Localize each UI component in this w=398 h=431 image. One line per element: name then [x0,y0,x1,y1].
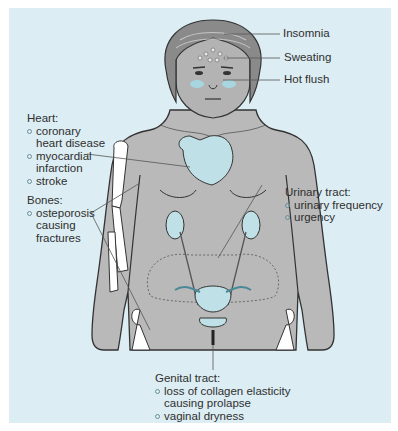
heart-item: myocardial infarction [27,150,107,175]
bones-callout: Bones: osteporosis causing fractures [27,194,91,244]
bones-item: osteporosis causing fractures [27,207,91,245]
genital-item: loss of collagen elasticity causing prol… [155,385,315,410]
genital-item: vaginal dryness [155,410,315,423]
genital-callout: Genital tract: loss of collagen elastici… [155,372,315,422]
label-insomnia: Insomnia [283,27,330,39]
label-hot-flush: Hot flush [284,73,329,85]
label-sweating: Sweating [284,51,331,63]
heart-item: coronary heart disease [27,125,107,150]
urinary-title: Urinary tract: [285,186,385,199]
urinary-callout: Urinary tract: urinary frequency urgency [285,186,385,224]
genital-title: Genital tract: [155,372,315,385]
heart-callout: Heart: coronary heart disease myocardial… [27,112,107,187]
heart-item: stroke [27,175,107,188]
heart-title: Heart: [27,112,107,125]
bones-title: Bones: [27,194,91,207]
urinary-item: urgency [285,211,385,224]
urinary-item: urinary frequency [285,199,385,212]
